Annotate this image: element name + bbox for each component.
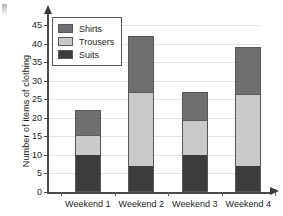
x-tick-mark <box>222 192 223 196</box>
chart-legend: Shirts Trousers Suits <box>52 17 122 66</box>
bar-segment-suits[interactable] <box>235 166 261 192</box>
y-tick-mark <box>44 192 47 193</box>
scan-artifact <box>2 4 7 15</box>
bar-segment-trousers[interactable] <box>75 135 101 155</box>
legend-label-shirts: Shirts <box>79 24 102 34</box>
y-tick-label: 40 <box>32 39 42 49</box>
legend-item-shirts: Shirts <box>58 22 114 35</box>
legend-swatch-shirts <box>58 24 73 33</box>
bar-segment-trousers[interactable] <box>235 94 261 166</box>
y-tick-label: 25 <box>32 94 42 104</box>
bar-segment-trousers[interactable] <box>182 120 208 155</box>
bar-segment-suits[interactable] <box>128 166 154 192</box>
legend-swatch-suits <box>58 50 73 59</box>
bar-segment-trousers[interactable] <box>128 92 154 166</box>
x-tick-mark <box>168 192 169 196</box>
bar-segment-shirts[interactable] <box>128 36 154 92</box>
legend-item-trousers: Trousers <box>58 35 114 48</box>
y-tick-label: 5 <box>37 168 42 178</box>
bar-segment-suits[interactable] <box>182 155 208 192</box>
x-tick-mark <box>275 192 276 196</box>
y-axis-title: Number of items of clothing <box>21 36 31 186</box>
legend-swatch-trousers <box>58 37 73 46</box>
bar-weekend-1[interactable] <box>75 110 101 192</box>
bar-weekend-4[interactable] <box>235 47 261 192</box>
y-tick-label: 45 <box>32 20 42 30</box>
bar-weekend-3[interactable] <box>182 92 208 192</box>
y-tick-label: 35 <box>32 57 42 67</box>
bar-segment-shirts[interactable] <box>182 92 208 120</box>
y-tick-label: 0 <box>37 187 42 197</box>
y-tick-label: 15 <box>32 131 42 141</box>
bar-segment-suits[interactable] <box>75 155 101 192</box>
x-axis-label: Weekend 4 <box>213 199 283 209</box>
bar-segment-shirts[interactable] <box>75 110 101 134</box>
x-tick-mark <box>61 192 62 196</box>
legend-label-suits: Suits <box>79 50 99 60</box>
y-tick-label: 20 <box>32 113 42 123</box>
y-axis-arrow-icon <box>44 5 52 14</box>
y-tick-label: 10 <box>32 150 42 160</box>
x-tick-mark <box>115 192 116 196</box>
x-axis-line <box>47 192 271 194</box>
legend-item-suits: Suits <box>58 48 114 61</box>
legend-label-trousers: Trousers <box>79 37 114 47</box>
stacked-bar-chart-figure: Number of items of clothing 051015202530… <box>0 0 283 216</box>
bar-weekend-2[interactable] <box>128 36 154 192</box>
bar-segment-shirts[interactable] <box>235 47 261 93</box>
y-tick-label: 30 <box>32 76 42 86</box>
